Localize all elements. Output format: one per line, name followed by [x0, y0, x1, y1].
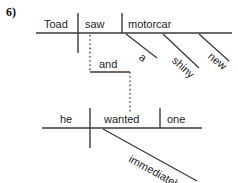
word-verb-lower: wanted [104, 114, 139, 125]
diagram-line-canvas [0, 0, 238, 183]
word-verb-upper: saw [85, 19, 105, 30]
word-object-lower: one [167, 114, 185, 125]
word-subject-upper: Toad [44, 19, 68, 30]
word-conjunction: and [99, 59, 117, 70]
word-object-upper: motorcar [128, 19, 171, 30]
sentence-diagram: 6) Toad saw motorcar a shiny new and he … [0, 0, 238, 183]
word-subject-lower: he [60, 114, 72, 125]
